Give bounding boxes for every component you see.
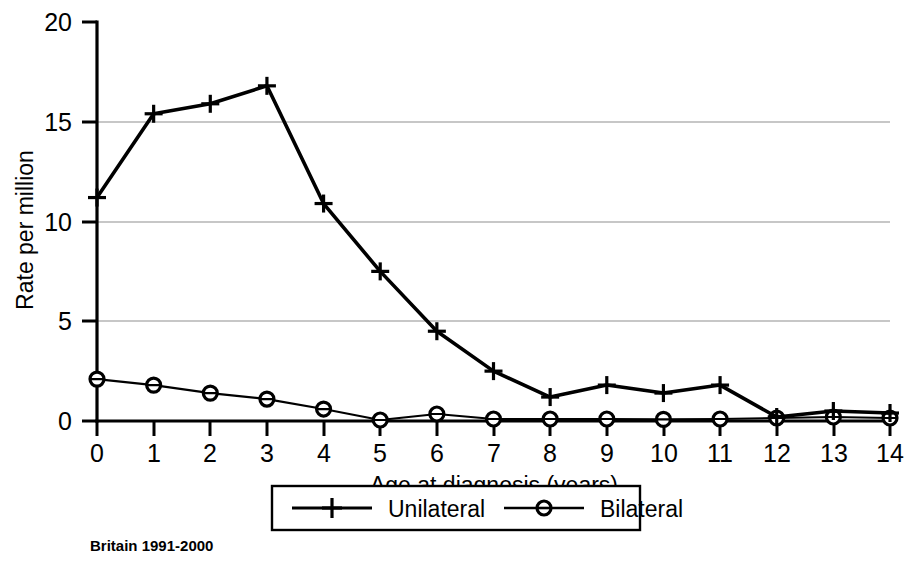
x-tick-label-8: 8 bbox=[543, 439, 557, 467]
gridlines bbox=[97, 122, 890, 321]
x-tick-label-10: 10 bbox=[650, 439, 678, 467]
series-group bbox=[88, 77, 899, 427]
legend-label-bilateral: Bilateral bbox=[600, 496, 683, 522]
y-tick-label-20: 20 bbox=[44, 8, 72, 36]
chart-legend: Unilateral Bilateral bbox=[272, 486, 683, 530]
x-tick-label-2: 2 bbox=[203, 439, 217, 467]
y-tick-label-5: 5 bbox=[58, 307, 72, 335]
x-tick-label-12: 12 bbox=[763, 439, 791, 467]
line-chart: 20 15 10 5 0 Rate per million 0 bbox=[0, 0, 911, 566]
x-tick-label-0: 0 bbox=[90, 439, 104, 467]
x-tick-label-4: 4 bbox=[317, 439, 331, 467]
chart-figure: 20 15 10 5 0 Rate per million 0 bbox=[0, 0, 911, 566]
y-tick-label-15: 15 bbox=[44, 108, 72, 136]
y-axis-title: Rate per million bbox=[12, 150, 38, 310]
y-tick-label-0: 0 bbox=[58, 407, 72, 435]
x-tick-label-1: 1 bbox=[147, 439, 161, 467]
y-axis: 20 15 10 5 0 Rate per million bbox=[12, 8, 97, 435]
legend-label-unilateral: Unilateral bbox=[388, 496, 485, 522]
x-tick-label-14: 14 bbox=[876, 439, 904, 467]
x-tick-label-13: 13 bbox=[820, 439, 848, 467]
x-tick-label-7: 7 bbox=[487, 439, 501, 467]
chart-caption: Britain 1991-2000 bbox=[90, 537, 213, 554]
x-tick-label-6: 6 bbox=[430, 439, 444, 467]
x-tick-label-3: 3 bbox=[260, 439, 274, 467]
x-tick-label-5: 5 bbox=[373, 439, 387, 467]
series-markers-unilateral bbox=[88, 77, 899, 426]
y-tick-label-10: 10 bbox=[44, 208, 72, 236]
x-tick-label-9: 9 bbox=[600, 439, 614, 467]
x-tick-label-11: 11 bbox=[707, 439, 733, 467]
